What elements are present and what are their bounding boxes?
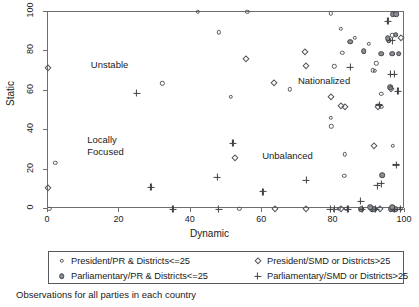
data-point — [147, 184, 154, 191]
data-point — [391, 143, 395, 147]
data-point — [214, 174, 221, 181]
data-point — [379, 91, 383, 95]
data-point — [357, 198, 364, 205]
y-axis-label: Static — [5, 81, 16, 106]
figure-caption: Observations for all parties in each cou… — [16, 289, 196, 300]
data-point — [347, 64, 354, 71]
data-point — [397, 34, 404, 41]
x-tick-mark — [190, 208, 191, 212]
data-point — [344, 206, 351, 213]
data-point — [389, 37, 396, 44]
data-point — [343, 152, 347, 156]
data-point — [245, 10, 249, 14]
y-tick-mark — [43, 50, 47, 51]
data-point — [376, 101, 383, 108]
x-tick-mark — [261, 208, 262, 212]
data-point — [373, 69, 377, 73]
data-point — [342, 174, 346, 178]
data-point — [328, 93, 335, 100]
legend-entry-parliamentary-pr[interactable]: Parliamentary/PR & Districts<=25 — [56, 269, 252, 284]
plus-icon — [252, 271, 263, 282]
data-point — [332, 64, 336, 68]
x-tick-mark — [333, 208, 334, 212]
data-point — [340, 51, 344, 55]
data-point — [53, 161, 57, 165]
y-tick-label: 80 — [25, 38, 35, 60]
y-tick-mark — [43, 129, 47, 130]
data-point — [259, 188, 266, 195]
data-point — [339, 27, 343, 31]
data-point — [394, 88, 401, 95]
y-tick-mark — [43, 11, 47, 12]
open-circle-icon — [56, 256, 67, 267]
data-point — [270, 80, 277, 87]
data-point — [216, 30, 220, 34]
data-point — [359, 206, 366, 213]
data-point — [229, 95, 233, 99]
legend-box: President/PR & Districts<=25 Parliamenta… — [48, 251, 404, 284]
x-tick-label: 0 — [32, 214, 62, 224]
data-point — [394, 11, 400, 17]
x-tick-label: 60 — [246, 214, 276, 224]
data-point — [169, 206, 176, 213]
plot-area: UnstableLocallyFocusedNationalizedUnbala… — [47, 11, 404, 208]
x-tick-label: 100 — [389, 214, 419, 224]
data-point — [160, 81, 164, 85]
data-point — [133, 90, 140, 97]
legend-entry-president-pr[interactable]: President/PR & Districts<=25 — [56, 254, 252, 269]
y-tick-label: 40 — [25, 117, 35, 139]
data-point — [396, 51, 402, 57]
data-point — [329, 116, 333, 120]
data-point — [329, 11, 333, 15]
data-point — [237, 207, 241, 211]
data-point — [271, 205, 278, 212]
data-point — [231, 154, 238, 161]
y-tick-label: 60 — [25, 78, 35, 100]
filled-circle-icon — [56, 271, 67, 282]
y-tick-mark — [43, 90, 47, 91]
legend-entry-parliamentary-smd[interactable]: Parliamentary/SMD or Districts>25 — [252, 269, 402, 284]
data-point — [372, 206, 379, 213]
data-point — [371, 142, 378, 149]
data-point — [391, 206, 398, 213]
x-tick-mark — [118, 208, 119, 212]
data-point — [288, 87, 292, 91]
data-point — [44, 64, 51, 71]
data-point — [229, 140, 236, 147]
data-point — [243, 55, 250, 62]
x-tick-label: 40 — [175, 214, 205, 224]
data-point — [374, 182, 381, 189]
open-diamond-icon — [252, 256, 263, 267]
data-point — [196, 10, 200, 14]
data-point — [361, 48, 367, 54]
y-tick-label: 20 — [25, 157, 35, 179]
data-point — [389, 51, 395, 57]
data-point — [379, 172, 385, 178]
data-point — [303, 205, 310, 212]
x-tick-label: 20 — [103, 214, 133, 224]
y-tick-label: 100 — [25, 0, 35, 21]
quadrant-annotation: Nationalized — [298, 75, 350, 86]
data-point — [379, 51, 385, 57]
data-point — [337, 205, 344, 212]
legend-entry-president-smd[interactable]: President/SMD or Districts>25 — [252, 254, 402, 269]
legend-label: Parliamentary/SMD or Districts>25 — [267, 271, 408, 281]
data-point — [301, 49, 308, 56]
data-point — [329, 124, 333, 128]
quadrant-annotation: Focused — [87, 146, 123, 157]
data-point — [393, 161, 400, 168]
legend-label: Parliamentary/PR & Districts<=25 — [71, 271, 208, 281]
y-tick-mark — [43, 169, 47, 170]
data-points-layer — [48, 12, 403, 207]
data-point — [366, 41, 370, 45]
legend-label: President/SMD or Districts>25 — [267, 256, 390, 266]
legend-label: President/PR & Districts<=25 — [71, 256, 190, 266]
x-tick-mark — [47, 208, 48, 212]
quadrant-annotation: Unbalanced — [262, 150, 313, 161]
x-tick-label: 80 — [318, 214, 348, 224]
quadrant-annotation: Unstable — [91, 59, 129, 70]
data-point — [374, 61, 378, 65]
data-point — [44, 184, 51, 191]
x-axis-label: Dynamic — [0, 228, 419, 239]
data-point — [215, 206, 222, 213]
